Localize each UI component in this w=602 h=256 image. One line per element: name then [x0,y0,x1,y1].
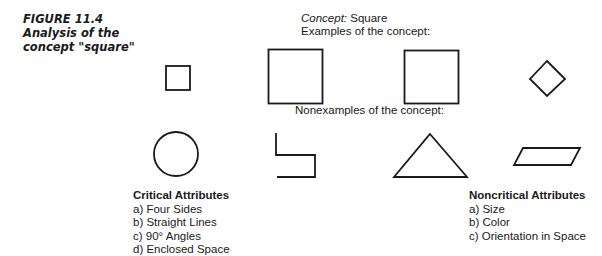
noncritical-attribute-item: a) Size [469,203,586,217]
noncritical-attribute-item: c) Orientation in Space [469,230,586,244]
critical-attribute-item: b) Straight Lines [133,216,230,230]
critical-attribute-item: c) 90° Angles [133,230,230,244]
noncritical-attribute-item: b) Color [469,216,586,230]
nonexample-triangle [394,134,467,177]
example-small-square [166,66,190,90]
critical-attribute-item: d) Enclosed Space [133,243,230,256]
noncritical-attributes-title: Noncritical Attributes [469,189,586,203]
example-large-square-2 [405,51,459,104]
nonexample-open-lines [276,133,315,177]
critical-attributes-title: Critical Attributes [133,189,230,203]
example-large-square-1 [269,50,323,104]
critical-attributes: Critical Attributes a) Four Sides b) Str… [133,189,230,256]
nonexample-parallelogram [514,148,580,165]
critical-attribute-item: a) Four Sides [133,203,230,217]
noncritical-attributes: Noncritical Attributes a) Size b) Color … [469,189,586,243]
nonexample-circle [154,132,198,176]
example-diamond [530,61,565,96]
